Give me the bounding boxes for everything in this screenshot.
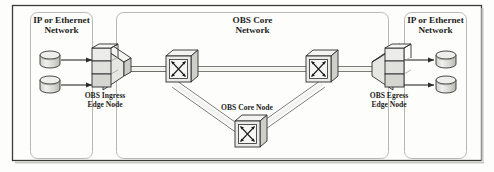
zone-label-core-network-line2: Network: [235, 25, 270, 35]
label-egress-edge-node-line2: Edge Node: [371, 100, 407, 109]
zone-label-left-network-line2: Network: [44, 25, 79, 35]
host-right-top: [436, 51, 456, 68]
node-core-node-bottom[interactable]: [235, 115, 267, 147]
node-core-node-left[interactable]: [166, 50, 198, 82]
figure-canvas: IP or Ethernet Network OBS Core Network …: [0, 0, 494, 172]
network-diagram: IP or Ethernet Network OBS Core Network …: [0, 0, 494, 172]
zone-label-right-network-line2: Network: [418, 25, 453, 35]
node-core-node-right[interactable]: [306, 50, 338, 82]
zone-label-right-network-line1: IP or Ethernet: [407, 15, 464, 25]
label-ingress-edge-node-line1: OBS Ingress: [85, 91, 126, 100]
zone-label-core-network-line1: OBS Core: [233, 15, 273, 25]
zone-label-left-network-line1: IP or Ethernet: [33, 15, 90, 25]
host-right-bottom: [436, 76, 456, 93]
host-left-bottom: [40, 76, 60, 93]
host-left-top: [40, 51, 60, 68]
label-ingress-edge-node-line2: Edge Node: [87, 100, 123, 109]
label-egress-edge-node-line1: OBS Egress: [370, 91, 409, 100]
label-core-node: OBS Core Node: [221, 103, 273, 112]
